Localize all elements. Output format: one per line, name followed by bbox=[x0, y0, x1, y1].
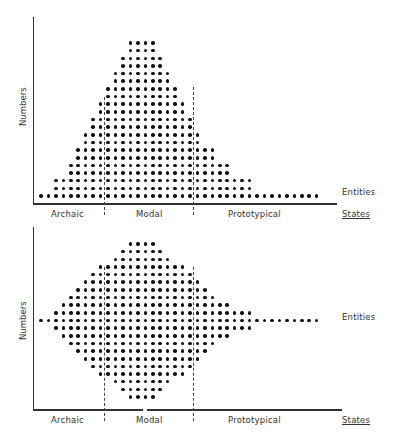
entity-dot bbox=[151, 41, 155, 45]
entity-dot bbox=[84, 296, 88, 300]
entity-dot bbox=[300, 319, 304, 323]
entity-dot bbox=[240, 326, 244, 330]
entity-dot bbox=[144, 258, 148, 262]
entity-dot bbox=[121, 319, 125, 323]
entity-dot bbox=[99, 319, 103, 323]
entity-dot bbox=[181, 125, 185, 129]
entity-dot bbox=[121, 187, 125, 191]
entity-dot bbox=[196, 357, 200, 361]
entity-dot bbox=[158, 171, 162, 175]
entity-dot bbox=[99, 372, 103, 376]
entity-dot bbox=[248, 319, 252, 323]
entity-dot bbox=[129, 118, 133, 122]
entity-dot bbox=[129, 95, 133, 99]
entity-dot bbox=[99, 148, 103, 152]
entity-dot bbox=[151, 319, 155, 323]
entity-dot bbox=[151, 72, 155, 76]
entity-dot bbox=[203, 319, 207, 323]
entity-dot bbox=[151, 326, 155, 330]
entity-dot bbox=[136, 164, 140, 168]
entity-dot bbox=[181, 141, 185, 145]
entity-dot bbox=[62, 311, 66, 315]
entity-dot bbox=[218, 326, 222, 330]
entity-dot bbox=[211, 179, 215, 183]
entity-dot bbox=[84, 187, 88, 191]
entity-dot bbox=[91, 334, 95, 338]
entity-dot bbox=[121, 280, 125, 284]
entity-dot bbox=[144, 179, 148, 183]
entity-dot bbox=[121, 250, 125, 254]
entity-dot bbox=[136, 41, 140, 45]
entity-dot bbox=[173, 365, 177, 369]
entity-dot bbox=[136, 110, 140, 114]
entity-dot bbox=[114, 349, 118, 353]
entity-dot bbox=[144, 87, 148, 91]
entity-dot bbox=[151, 288, 155, 292]
entity-dot bbox=[114, 273, 118, 277]
entity-dot bbox=[129, 303, 133, 307]
entity-dot bbox=[255, 319, 259, 323]
entity-dot bbox=[84, 141, 88, 145]
entity-dot bbox=[114, 372, 118, 376]
entity-dot bbox=[129, 380, 133, 384]
entity-dot bbox=[106, 357, 110, 361]
entity-dot bbox=[151, 156, 155, 160]
entity-dot bbox=[203, 171, 207, 175]
entity-dot bbox=[293, 319, 297, 323]
entity-dot bbox=[233, 179, 237, 183]
entity-dot bbox=[106, 95, 110, 99]
entity-dot bbox=[144, 342, 148, 346]
entity-dot bbox=[84, 326, 88, 330]
entity-dot bbox=[233, 311, 237, 315]
entity-dot bbox=[144, 265, 148, 269]
entity-dot bbox=[158, 87, 162, 91]
entity-dot bbox=[240, 311, 244, 315]
entity-dot bbox=[166, 87, 170, 91]
entity-dot bbox=[99, 349, 103, 353]
entity-dot bbox=[121, 133, 125, 137]
entity-dot bbox=[136, 342, 140, 346]
entity-dot bbox=[166, 273, 170, 277]
entity-dot bbox=[307, 194, 311, 198]
entity-dot bbox=[203, 187, 207, 191]
entity-dot bbox=[181, 288, 185, 292]
entity-dot bbox=[173, 164, 177, 168]
entity-dot bbox=[181, 372, 185, 376]
entity-dot bbox=[136, 179, 140, 183]
entity-dot bbox=[114, 125, 118, 129]
entity-dot bbox=[151, 250, 155, 254]
entity-dot bbox=[181, 118, 185, 122]
entity-dot bbox=[188, 311, 192, 315]
entity-dot bbox=[211, 311, 215, 315]
entity-dot bbox=[173, 311, 177, 315]
entity-dot bbox=[129, 280, 133, 284]
entity-dot bbox=[166, 171, 170, 175]
entity-dot bbox=[181, 349, 185, 353]
entity-dot bbox=[173, 133, 177, 137]
entity-dot bbox=[129, 334, 133, 338]
entity-dot bbox=[151, 194, 155, 198]
entity-dot bbox=[84, 334, 88, 338]
entity-dot bbox=[106, 141, 110, 145]
entity-dot bbox=[166, 164, 170, 168]
entity-dot bbox=[166, 141, 170, 145]
entity-dot bbox=[91, 133, 95, 137]
entity-dot bbox=[188, 179, 192, 183]
entity-dot bbox=[144, 319, 148, 323]
entity-dot bbox=[99, 357, 103, 361]
entity-dot bbox=[136, 187, 140, 191]
entity-dot bbox=[129, 72, 133, 76]
entity-dot bbox=[270, 319, 274, 323]
entity-dot bbox=[84, 319, 88, 323]
entity-dot bbox=[144, 380, 148, 384]
entity-dot bbox=[121, 388, 125, 392]
entity-dot bbox=[188, 194, 192, 198]
entity-dot bbox=[203, 311, 207, 315]
entity-dot bbox=[166, 296, 170, 300]
entity-dot bbox=[188, 365, 192, 369]
entity-dot bbox=[151, 171, 155, 175]
entity-dot bbox=[240, 179, 244, 183]
entity-dot bbox=[129, 342, 133, 346]
entity-dot bbox=[136, 357, 140, 361]
entity-dot bbox=[106, 372, 110, 376]
